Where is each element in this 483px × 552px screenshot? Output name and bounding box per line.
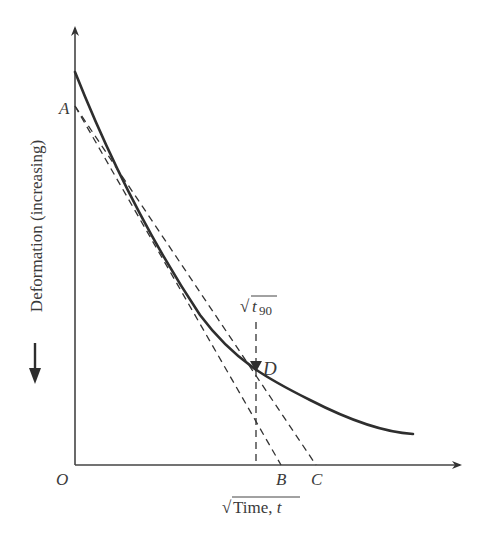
x-axis-title: √ Time, t bbox=[222, 497, 300, 517]
x-axis-sqrt: √ bbox=[222, 498, 232, 517]
t90-subscript: 90 bbox=[259, 303, 272, 318]
line-a-c bbox=[75, 106, 316, 465]
label-b: B bbox=[276, 470, 287, 489]
label-origin: O bbox=[56, 470, 68, 489]
x-axis-label: Time, t bbox=[233, 498, 283, 517]
label-d: D bbox=[262, 358, 277, 379]
label-a: A bbox=[58, 99, 70, 118]
y-axis-label: Deformation (increasing) bbox=[27, 140, 46, 312]
label-c: C bbox=[311, 470, 323, 489]
diagram-canvas: A O B C D √ t 90 √ Time, t Deformation (… bbox=[0, 0, 483, 552]
sqrt-symbol: √ bbox=[240, 297, 250, 316]
t90-var: t bbox=[252, 297, 258, 316]
sqrt-t90-label: √ t 90 bbox=[240, 296, 277, 318]
consolidation-curve bbox=[75, 72, 413, 434]
down-arrowhead-icon bbox=[29, 368, 41, 384]
tangent-line-a-b bbox=[75, 106, 281, 465]
